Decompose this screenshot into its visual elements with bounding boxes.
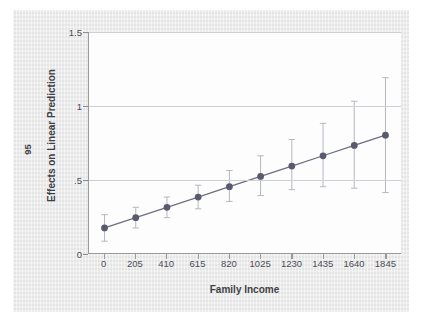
x-tick-mark	[260, 254, 261, 259]
x-tick-label: 0	[101, 258, 106, 269]
x-tick-label: 1435	[312, 258, 333, 269]
data-point-marker	[257, 173, 264, 180]
x-tick-label: 615	[190, 258, 206, 269]
x-axis-tick-labels: 020541061582010251230143516401845	[88, 258, 401, 272]
data-point-marker	[382, 132, 389, 139]
y-tick-mark	[83, 106, 88, 107]
x-tick-mark	[291, 254, 292, 259]
x-tick-label: 1640	[344, 258, 365, 269]
x-tick-mark	[198, 254, 199, 259]
x-tick-mark	[229, 254, 230, 259]
x-tick-mark	[166, 254, 167, 259]
y-axis-title: Effects on Linear Prediction	[46, 25, 57, 247]
data-point-marker	[288, 163, 295, 170]
x-tick-label: 820	[221, 258, 237, 269]
data-point-marker	[351, 142, 358, 149]
x-axis-title: Family Income	[88, 284, 401, 295]
x-tick-label: 410	[158, 258, 174, 269]
y-tick-label: 1.5	[69, 27, 82, 38]
x-tick-label: 1845	[375, 258, 396, 269]
data-point-marker	[320, 152, 327, 159]
x-tick-label: 205	[127, 258, 143, 269]
x-tick-mark	[385, 254, 386, 259]
data-point-marker	[132, 214, 139, 221]
x-tick-label: 1025	[250, 258, 271, 269]
y-tick-mark	[83, 254, 88, 255]
data-point-marker	[164, 204, 171, 211]
y-tick-mark	[83, 32, 88, 33]
data-point-marker	[226, 183, 233, 190]
x-tick-mark	[104, 254, 105, 259]
y-tick-label: .5	[74, 175, 82, 186]
y-tick-label: 0	[77, 249, 82, 260]
x-tick-label: 1230	[281, 258, 302, 269]
graph-region: 0.511.5 02054106158201025123014351640184…	[13, 10, 409, 312]
x-tick-mark	[135, 254, 136, 259]
x-tick-mark	[354, 254, 355, 259]
data-point-marker	[101, 225, 108, 232]
data-point-marker	[195, 194, 202, 201]
series-line	[105, 135, 386, 228]
gridline-y-1	[89, 180, 401, 181]
y-tick-label: 1	[77, 101, 82, 112]
gridline-y-3	[89, 32, 401, 33]
confidence-interval-label: 95	[22, 130, 33, 170]
gridline-y-2	[89, 106, 401, 107]
figure: 0.511.5 02054106158201025123014351640184…	[0, 0, 422, 328]
plot-panel	[88, 32, 401, 254]
x-tick-mark	[323, 254, 324, 259]
y-tick-mark	[83, 180, 88, 181]
chart-data-layer	[89, 32, 401, 253]
